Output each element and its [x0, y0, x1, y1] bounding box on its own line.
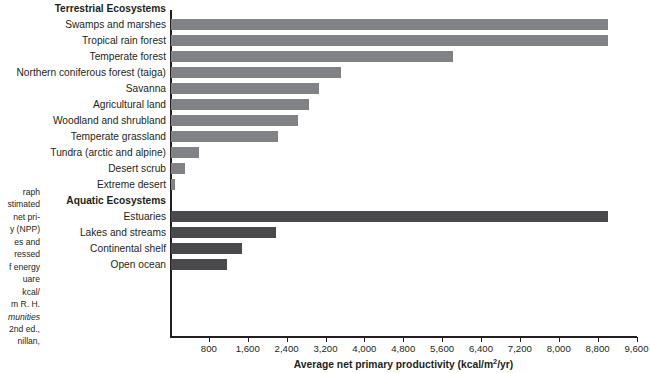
x-tick-label: 800 [201, 343, 217, 354]
chart-row: Woodland and shrubland [0, 113, 650, 129]
group-header-label: Aquatic Ecosystems [0, 193, 166, 209]
x-tick [637, 337, 638, 342]
bar [171, 99, 309, 111]
x-tick-label: 7,200 [508, 343, 532, 354]
x-tick [287, 337, 288, 342]
bar [171, 179, 175, 191]
category-label: Agricultural land [0, 97, 166, 113]
group-header-row: Terrestrial Ecosystems [0, 1, 650, 17]
category-label: Swamps and marshes [0, 17, 166, 33]
x-tick [481, 337, 482, 342]
bar [171, 51, 453, 63]
chart-row: Tropical rain forest [0, 33, 650, 49]
x-tick [520, 337, 521, 342]
chart-row: Agricultural land [0, 97, 650, 113]
group-header-row: Aquatic Ecosystems [0, 193, 650, 209]
bar [171, 147, 199, 159]
x-tick-label: 6,400 [469, 343, 493, 354]
chart-row: Tundra (arctic and alpine) [0, 145, 650, 161]
category-label: Lakes and streams [0, 225, 166, 241]
category-label: Temperate forest [0, 49, 166, 65]
chart-row: Swamps and marshes [0, 17, 650, 33]
bar [171, 243, 242, 255]
category-label: Desert scrub [0, 161, 166, 177]
x-tick-label: 2,400 [275, 343, 299, 354]
x-tick [364, 337, 365, 342]
bar [171, 115, 298, 127]
x-tick [326, 337, 327, 342]
x-tick-label: 4,000 [352, 343, 376, 354]
group-header-label: Terrestrial Ecosystems [0, 1, 166, 17]
chart-row: Savanna [0, 81, 650, 97]
bar [171, 83, 319, 95]
bar [171, 163, 185, 175]
chart-row: Continental shelf [0, 241, 650, 257]
x-tick-label: 3,200 [313, 343, 337, 354]
category-label: Open ocean [0, 257, 166, 273]
bar [171, 35, 608, 47]
bar [171, 211, 608, 223]
x-tick [248, 337, 249, 342]
category-label: Extreme desert [0, 177, 166, 193]
chart-row: Lakes and streams [0, 225, 650, 241]
x-tick-label: 9,600 [624, 343, 648, 354]
chart-row: Open ocean [0, 257, 650, 273]
category-label: Temperate grassland [0, 129, 166, 145]
category-label: Northern coniferous forest (taiga) [0, 65, 166, 81]
x-tick-label: 8,800 [586, 343, 610, 354]
x-axis-title: Average net primary productivity (kcal/m… [170, 357, 637, 370]
bar [171, 131, 278, 143]
x-tick [403, 337, 404, 342]
chart-row: Desert scrub [0, 161, 650, 177]
bar-chart: 8001,6002,4003,2004,0004,8005,6006,4007,… [0, 0, 650, 373]
x-tick-label: 4,800 [391, 343, 415, 354]
category-label: Savanna [0, 81, 166, 97]
chart-row: Temperate grassland [0, 129, 650, 145]
bar [171, 227, 276, 239]
category-label: Woodland and shrubland [0, 113, 166, 129]
x-tick [209, 337, 210, 342]
bar [171, 67, 341, 79]
x-tick [598, 337, 599, 342]
category-label: Estuaries [0, 209, 166, 225]
category-label: Tundra (arctic and alpine) [0, 145, 166, 161]
chart-row: Estuaries [0, 209, 650, 225]
x-tick-label: 8,000 [547, 343, 571, 354]
x-tick [442, 337, 443, 342]
bar [171, 19, 608, 31]
bar [171, 259, 227, 271]
chart-row: Northern coniferous forest (taiga) [0, 65, 650, 81]
x-tick-label: 1,600 [236, 343, 260, 354]
chart-row: Extreme desert [0, 177, 650, 193]
category-label: Continental shelf [0, 241, 166, 257]
x-tick-label: 5,600 [430, 343, 454, 354]
chart-row: Temperate forest [0, 49, 650, 65]
x-tick [559, 337, 560, 342]
category-label: Tropical rain forest [0, 33, 166, 49]
